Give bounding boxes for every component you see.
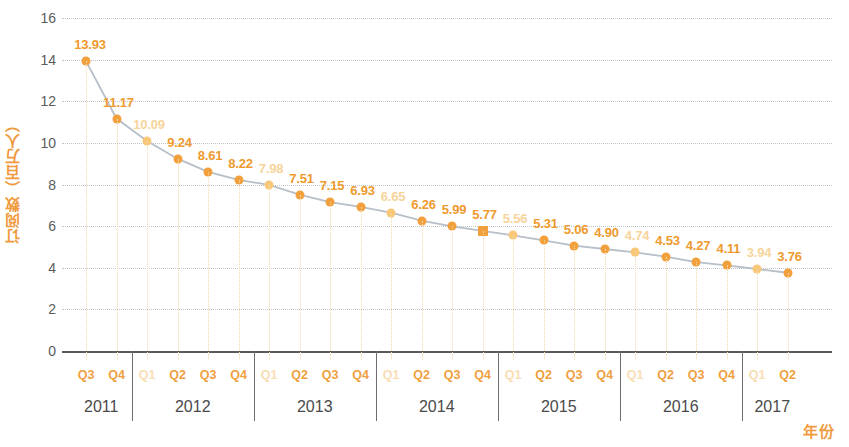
x-axis-tick (544, 240, 545, 359)
x-axis-tick (330, 202, 331, 359)
x-axis-tick (391, 213, 392, 359)
x-axis-year-label: 2015 (541, 398, 577, 416)
x-axis-tick (422, 221, 423, 359)
x-axis-tick (239, 180, 240, 359)
x-axis-quarter-label: Q3 (444, 368, 461, 382)
data-point-label: 5.77 (472, 207, 497, 222)
data-point-label: 8.61 (198, 148, 223, 163)
x-axis-year-label: 2017 (754, 398, 790, 416)
x-axis-tick (727, 265, 728, 359)
x-axis-tick (147, 141, 148, 359)
x-axis-quarter-label: Q2 (291, 368, 308, 382)
x-axis-tick (788, 273, 789, 359)
data-point-label: 9.24 (167, 135, 192, 150)
x-axis-quarter-label: Q1 (261, 368, 278, 382)
x-axis-quarter-label: Q1 (383, 368, 400, 382)
x-axis-quarter-label: Q4 (596, 368, 613, 382)
x-axis-tick (178, 159, 179, 359)
year-separator (132, 351, 133, 421)
year-separator (620, 351, 621, 421)
data-point-label: 13.93 (74, 37, 106, 52)
data-point-label: 3.94 (747, 245, 772, 260)
data-point-label: 7.98 (259, 161, 284, 176)
x-axis-tick (361, 207, 362, 359)
x-axis-quarter-label: Q1 (627, 368, 644, 382)
line-chart: 订阅数（百万人） 0246810121416 13.9311.1710.099.… (0, 0, 849, 447)
data-point-label: 11.17 (103, 95, 134, 110)
x-axis-tick (86, 61, 87, 359)
x-axis-tick (605, 249, 606, 359)
series-polyline (86, 61, 788, 273)
data-point-label: 4.53 (655, 233, 680, 248)
x-axis-quarter-label: Q2 (657, 368, 674, 382)
x-axis-tick (666, 257, 667, 359)
x-axis-tick (757, 269, 758, 359)
x-axis-year-label: 2011 (84, 398, 118, 416)
x-axis-quarter-label: Q3 (200, 368, 217, 382)
x-axis-tick (574, 246, 575, 359)
x-axis-year-label: 2014 (419, 398, 455, 416)
data-point-label: 8.22 (228, 156, 253, 171)
data-point-label: 4.27 (686, 238, 711, 253)
x-axis-tick (208, 172, 209, 359)
x-axis-tick (513, 235, 514, 359)
data-point-label: 6.93 (350, 183, 375, 198)
x-axis-quarter-label: Q1 (139, 368, 156, 382)
data-point-label: 4.74 (625, 228, 650, 243)
x-axis-title: 年份 (803, 420, 835, 441)
x-axis-tick (300, 195, 301, 359)
x-axis-quarter-label: Q3 (78, 368, 95, 382)
x-axis-tick (635, 252, 636, 359)
x-axis-tick (483, 231, 484, 359)
data-point-label: 3.76 (777, 249, 802, 264)
x-axis-quarter-label: Q2 (535, 368, 552, 382)
data-point-label: 7.15 (320, 178, 345, 193)
data-point-label: 4.11 (717, 241, 741, 256)
x-axis-quarter-label: Q3 (688, 368, 705, 382)
x-axis-tick (269, 185, 270, 359)
x-axis-tick (696, 262, 697, 359)
data-point-label: 10.09 (133, 117, 165, 132)
year-separator (254, 351, 255, 421)
data-point-label: 5.56 (503, 211, 528, 226)
data-point-label: 5.31 (533, 216, 558, 231)
x-axis-quarter-label: Q2 (779, 368, 796, 382)
data-point-label: 6.26 (411, 197, 436, 212)
x-axis-quarter-label: Q1 (505, 368, 522, 382)
x-axis-quarter-label: Q1 (749, 368, 766, 382)
data-point-label: 7.51 (289, 171, 314, 186)
x-axis-year-label: 2016 (663, 398, 699, 416)
x-axis-quarter-label: Q4 (474, 368, 491, 382)
data-point-label: 6.65 (381, 189, 406, 204)
x-axis-quarter-label: Q3 (566, 368, 583, 382)
x-axis-quarter-label: Q4 (352, 368, 369, 382)
data-point-label: 5.99 (442, 202, 467, 217)
year-separator (498, 351, 499, 421)
x-axis-tick (452, 226, 453, 359)
x-axis-quarter-label: Q3 (322, 368, 339, 382)
x-axis-quarter-label: Q4 (718, 368, 735, 382)
year-separator (376, 351, 377, 421)
x-axis-quarter-label: Q4 (230, 368, 247, 382)
x-axis-quarter-label: Q4 (108, 368, 125, 382)
x-axis-quarter-label: Q2 (169, 368, 186, 382)
data-point-label: 5.06 (564, 222, 589, 237)
x-axis-year-label: 2013 (297, 398, 333, 416)
x-axis-tick (117, 119, 118, 359)
data-point-label: 4.90 (594, 225, 619, 240)
x-axis-year-label: 2012 (175, 398, 211, 416)
x-axis-quarter-label: Q2 (413, 368, 430, 382)
year-separator (742, 351, 743, 421)
